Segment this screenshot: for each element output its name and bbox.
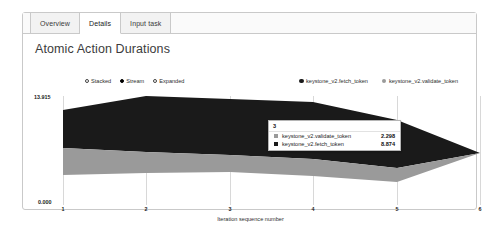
tab-details[interactable]: Details (80, 13, 121, 34)
chart-tooltip: 3 keystone_v2.validate_token 2.298 keyst… (268, 120, 401, 151)
tooltip-swatch-icon (274, 142, 278, 146)
series-legend: keystone_v2.fetch_token keystone_v2.vali… (299, 78, 458, 84)
tooltip-swatch-icon (274, 134, 278, 138)
rally-report-panel: Overview Details Input task Atomic Actio… (0, 0, 497, 226)
tab-overview-label: Overview (40, 20, 70, 27)
tooltip-row-validate-token-value: 2.298 (381, 133, 395, 139)
radio-stream-label: Stream (126, 78, 144, 84)
tab-details-label: Details (89, 20, 111, 27)
tab-input-task[interactable]: Input task (121, 13, 171, 33)
tooltip-row-fetch-token-value: 8.874 (381, 141, 395, 147)
chart-title: Atomic Action Durations (35, 42, 170, 56)
legend-item-fetch-token-label: keystone_v2.fetch_token (306, 78, 368, 84)
tab-bar: Overview Details Input task (23, 13, 476, 34)
tooltip-header: 3 (269, 122, 400, 132)
x-tick-1: 1 (62, 206, 65, 212)
radio-stacked-label: Stacked (91, 78, 111, 84)
x-tick-4: 4 (312, 206, 315, 212)
y-axis-min-label: 0.000 (38, 199, 52, 205)
tab-bar-filler (171, 13, 476, 33)
legend-item-validate-token[interactable]: keystone_v2.validate_token (382, 78, 458, 84)
x-axis-title: Iteration sequence number (23, 216, 478, 222)
legend-dot-icon (382, 79, 387, 84)
x-tick-3: 3 (229, 206, 232, 212)
x-tick-5: 5 (396, 206, 399, 212)
legend-dot-icon (299, 79, 304, 84)
y-axis-max-label: 13.915 (34, 94, 51, 100)
tooltip-row-fetch-token-name: keystone_v2.fetch_token (282, 141, 377, 147)
legend-item-fetch-token[interactable]: keystone_v2.fetch_token (299, 78, 368, 84)
tooltip-row-validate-token: keystone_v2.validate_token 2.298 (269, 132, 400, 140)
tooltip-row-validate-token-name: keystone_v2.validate_token (282, 133, 377, 139)
x-tick-2: 2 (145, 206, 148, 212)
radio-expanded[interactable]: Expanded (153, 78, 184, 84)
details-panel: Overview Details Input task Atomic Actio… (22, 12, 477, 210)
x-tick-6: 6 (479, 206, 482, 212)
view-mode-radio-group: Stacked Stream Expanded (85, 78, 184, 84)
radio-expanded-label: Expanded (159, 78, 184, 84)
radio-stacked[interactable]: Stacked (85, 78, 111, 84)
tooltip-row-fetch-token: keystone_v2.fetch_token 8.874 (269, 140, 400, 148)
radio-checked-icon (120, 79, 124, 83)
tab-input-task-label: Input task (130, 20, 161, 27)
legend-item-validate-token-label: keystone_v2.validate_token (389, 78, 458, 84)
x-axis-ticks: 1 2 3 4 5 6 (63, 206, 481, 215)
radio-unchecked-icon (153, 79, 157, 83)
radio-stream[interactable]: Stream (120, 78, 144, 84)
radio-unchecked-icon (85, 79, 89, 83)
tab-overview[interactable]: Overview (30, 13, 80, 33)
